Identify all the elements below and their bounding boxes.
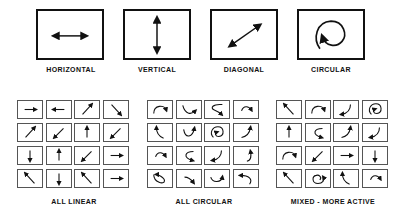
movement-label-circular: CIRCULAR	[286, 66, 376, 73]
movement-box-vertical	[123, 9, 191, 60]
grid-cell	[74, 123, 100, 142]
arc-over-right-small-arrow-icon	[234, 101, 258, 118]
hook-back-left-arrow-icon	[234, 170, 258, 187]
up-right-arrow-icon	[75, 101, 99, 118]
movement-box-circular	[297, 9, 365, 60]
spiral-loop-arrow-icon	[205, 124, 229, 141]
down-arrow-icon	[363, 147, 387, 164]
grid-cell	[176, 146, 202, 165]
arc-down-left-arrow-icon	[363, 124, 387, 141]
arc-over-right-arrow-icon	[277, 147, 301, 164]
down-left-arrow-icon	[306, 147, 330, 164]
right-arrow-icon	[334, 147, 358, 164]
up-arrow-icon	[47, 147, 71, 164]
grid-cell	[305, 169, 331, 188]
arc-up-right-arrow-icon	[334, 124, 358, 141]
up-left-arrow-icon	[18, 170, 42, 187]
grid-cell	[204, 123, 230, 142]
s-curve-left-arrow-icon	[205, 101, 229, 118]
grid-cell	[74, 169, 100, 188]
grid-cell	[305, 146, 331, 165]
down-left-arrow-icon	[75, 147, 99, 164]
movement-box-diagonal	[210, 9, 278, 60]
circular-arrow-icon	[299, 11, 363, 58]
grid-cell	[17, 146, 43, 165]
grid-cell	[74, 146, 100, 165]
grid-cell	[147, 123, 173, 142]
arc-down-left-arrow-icon	[334, 101, 358, 118]
up-right-arrow-icon	[18, 124, 42, 141]
grid-cell	[233, 169, 259, 188]
arc-up-left-arrow-icon	[334, 170, 358, 187]
arc-up-left-arrow-icon	[148, 124, 172, 141]
grid-cell	[333, 146, 359, 165]
hook-left-arrow-icon	[306, 124, 330, 141]
arc-under-left-arrow-icon	[205, 170, 229, 187]
grid-cell	[362, 100, 388, 119]
grid-cell	[204, 146, 230, 165]
up-arrow-icon	[277, 124, 301, 141]
grid-cell	[17, 123, 43, 142]
grid-cell	[46, 169, 72, 188]
spiral-loop-arrow-icon	[363, 101, 387, 118]
grid-cell	[204, 169, 230, 188]
up-left-arrow-icon	[75, 170, 99, 187]
right-arrow-icon	[18, 101, 42, 118]
movement-label-vertical: VERTICAL	[112, 66, 202, 73]
grid-label-all-circular: ALL CIRCULAR	[139, 198, 269, 205]
grid-cell	[305, 123, 331, 142]
double-arrow-vertical-icon	[125, 11, 189, 58]
double-arrow-diagonal-icon	[212, 11, 276, 58]
arc-under-up-arrow-icon	[177, 124, 201, 141]
right-arrow-icon	[104, 170, 128, 187]
grid-label-mixed-more-active: MIXED - MORE ACTIVE	[268, 198, 398, 205]
grid-cell	[103, 169, 129, 188]
up-left-arrow-icon	[277, 170, 301, 187]
arc-down-right-small-arrow-icon	[177, 170, 201, 187]
grid-cell	[147, 169, 173, 188]
movement-label-horizontal: HORIZONTAL	[26, 66, 116, 73]
grid-cell	[362, 123, 388, 142]
grid-label-all-linear: ALL LINEAR	[9, 198, 139, 205]
grid-cell	[46, 100, 72, 119]
grid-cell	[46, 123, 72, 142]
left-arrow-icon	[47, 101, 71, 118]
arc-under-right-arrow-icon	[177, 101, 201, 118]
grid-cell	[46, 146, 72, 165]
arc-over-right-small-arrow-icon	[363, 170, 387, 187]
grid-cell	[147, 100, 173, 119]
down-arrow-icon	[47, 170, 71, 187]
arc-over-right-arrow-icon	[148, 101, 172, 118]
grid-cell	[276, 146, 302, 165]
right-arrow-icon	[104, 147, 128, 164]
grid-cell	[176, 123, 202, 142]
hook-left-arrow-icon	[177, 147, 201, 164]
up-arrow-icon	[75, 124, 99, 141]
loop-down-right-arrow-icon	[148, 170, 172, 187]
double-arrow-horizontal-icon	[38, 11, 102, 58]
grid-cell	[333, 169, 359, 188]
grid-cell	[276, 100, 302, 119]
grid-cell	[103, 123, 129, 142]
grid-cell	[103, 100, 129, 119]
arc-up-right-arrow-icon	[234, 124, 258, 141]
grid-cell	[305, 100, 331, 119]
grid-cell	[74, 100, 100, 119]
grid-cell	[333, 100, 359, 119]
grid-cell	[147, 146, 173, 165]
grid-cell	[204, 100, 230, 119]
grid-cell	[103, 146, 129, 165]
arc-over-right-small-arrow-icon	[148, 147, 172, 164]
arc-up-right-hook-arrow-icon	[234, 147, 258, 164]
grid-cell	[176, 169, 202, 188]
down-arrow-icon	[18, 147, 42, 164]
grid-cell	[233, 100, 259, 119]
grid-cell	[17, 169, 43, 188]
grid-cell	[176, 100, 202, 119]
grid-cell	[276, 169, 302, 188]
grid-cell	[233, 146, 259, 165]
grid-cell	[17, 100, 43, 119]
grid-cell	[362, 169, 388, 188]
movement-box-horizontal	[36, 9, 104, 60]
down-right-arrow-icon	[104, 101, 128, 118]
